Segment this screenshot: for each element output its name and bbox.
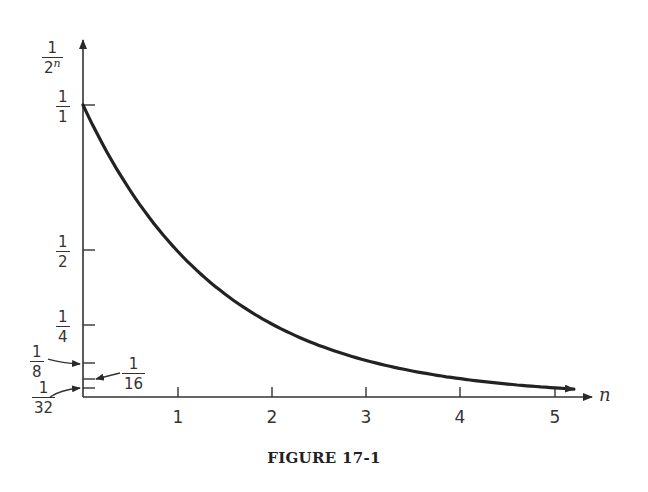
x-tick-label-5: 5 <box>550 407 561 427</box>
x-tick-label-2: 2 <box>267 407 278 427</box>
arrow-1-8 <box>48 359 80 364</box>
y-tick-label-1-16: 116 <box>122 356 145 392</box>
x-ticks <box>178 387 555 397</box>
y-tick-label-1-4: 14 <box>56 309 70 345</box>
x-tick-label-1: 1 <box>173 407 184 427</box>
y-tick-label-1-32: 132 <box>32 380 55 416</box>
y-label-base: 2 <box>44 59 54 77</box>
y-tick-label-1-1: 11 <box>56 89 70 125</box>
x-tick-label-4: 4 <box>455 407 466 427</box>
arrow-1-16 <box>96 373 120 379</box>
exponential-curve <box>83 105 574 389</box>
y-tick-label-1-8: 18 <box>30 344 44 380</box>
x-axis-label: n <box>599 384 611 405</box>
y-axis-label: 1 2n <box>42 40 63 76</box>
y-tick-label-1-2: 12 <box>56 234 70 270</box>
x-tick-label-3: 3 <box>361 407 372 427</box>
y-label-exp: n <box>54 57 61 70</box>
y-ticks <box>83 105 95 388</box>
figure-caption: FIGURE 17-1 <box>0 449 648 467</box>
